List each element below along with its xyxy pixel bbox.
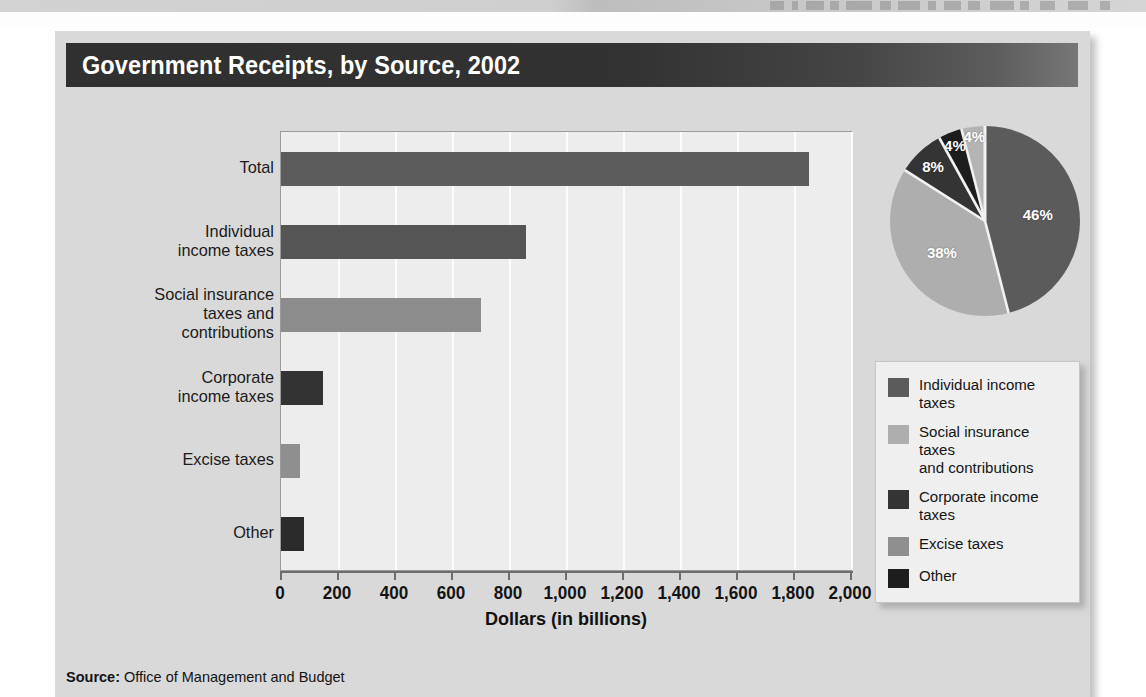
x-axis-tick-label: 1,000 <box>544 583 587 604</box>
source-text: Office of Management and Budget <box>124 669 345 685</box>
legend-item: Individual income taxes <box>888 376 1069 412</box>
gridline <box>794 132 796 570</box>
gridline <box>566 132 568 570</box>
legend-item: Excise taxes <box>888 535 1069 556</box>
gridline <box>395 132 397 570</box>
legend-item: Social insurance taxesand contributions <box>888 423 1069 477</box>
x-axis-tick <box>679 571 681 580</box>
pie-slice-label: 38% <box>927 244 957 261</box>
gridline <box>680 132 682 570</box>
x-axis-tick <box>622 571 624 580</box>
x-axis-tick <box>793 571 795 580</box>
bar-category-axis-labels: TotalIndividualincome taxesSocial insura… <box>66 131 274 571</box>
x-axis-tick <box>508 571 510 580</box>
x-axis-tick-label: 200 <box>323 583 352 604</box>
gridline <box>338 132 340 570</box>
gridline <box>851 132 853 570</box>
scanned-page-edge-strip <box>0 0 1146 12</box>
x-axis-tick-label: 1,400 <box>658 583 701 604</box>
figure-title: Government Receipts, by Source, 2002 <box>66 51 520 80</box>
legend-swatch <box>888 490 909 509</box>
bar-plot-area <box>280 131 852 571</box>
pie-slice-label: 8% <box>922 157 944 174</box>
pie-slice-label: 46% <box>1023 206 1053 223</box>
chart-legend: Individual income taxesSocial insurance … <box>875 361 1080 603</box>
x-axis-tick-label: 1,200 <box>601 583 644 604</box>
gridline <box>737 132 739 570</box>
x-axis-tick-label: 1,600 <box>715 583 758 604</box>
x-axis-tick <box>451 571 453 580</box>
source-label: Source: <box>66 669 120 685</box>
legend-label: Excise taxes <box>919 535 1003 553</box>
bar-category-label: Social insurancetaxes andcontributions <box>74 285 274 342</box>
legend-label: Other <box>919 567 957 585</box>
x-axis-tick-label: 800 <box>494 583 523 604</box>
legend-item: Corporate income taxes <box>888 488 1069 524</box>
x-axis-tick-label: 400 <box>380 583 409 604</box>
legend-label: Social insurance taxesand contributions <box>919 423 1065 477</box>
x-axis-tick <box>280 571 282 580</box>
bar <box>281 225 526 259</box>
legend-swatch <box>888 378 909 397</box>
x-axis-tick <box>565 571 567 580</box>
source-note: Source: Office of Management and Budget <box>66 669 345 685</box>
legend-item: Other <box>888 567 1069 588</box>
legend-swatch <box>888 425 909 444</box>
bar-category-label: Excise taxes <box>74 450 274 469</box>
legend-label: Corporate income taxes <box>919 488 1065 524</box>
figure-title-banner: Government Receipts, by Source, 2002 <box>66 43 1078 87</box>
gridline <box>452 132 454 570</box>
gridline <box>509 132 511 570</box>
x-axis-tick-label: 2,000 <box>829 583 872 604</box>
figure-panel: Government Receipts, by Source, 2002 Tot… <box>55 31 1090 697</box>
x-axis-tick <box>394 571 396 580</box>
page-margin-whitespace <box>0 12 1146 28</box>
legend-label: Individual income taxes <box>919 376 1065 412</box>
x-axis-tick-label: 0 <box>275 583 285 604</box>
x-axis-title: Dollars (in billions) <box>280 609 852 630</box>
x-axis-tick <box>337 571 339 580</box>
bar-chart: TotalIndividualincome taxesSocial insura… <box>66 107 866 667</box>
legend-swatch <box>888 569 909 588</box>
pie-slice-label: 4% <box>963 128 985 145</box>
bar-category-label: Individualincome taxes <box>74 222 274 260</box>
bar <box>281 152 809 186</box>
legend-swatch <box>888 537 909 556</box>
bar <box>281 517 304 551</box>
x-axis-tick-label: 600 <box>437 583 466 604</box>
pie-chart: 46%38%8%4%4% <box>890 126 1080 316</box>
bar <box>281 444 300 478</box>
x-axis-tick <box>850 571 852 580</box>
x-axis-tick-label: 1,800 <box>772 583 815 604</box>
x-axis-tick <box>736 571 738 580</box>
bar-category-label: Corporateincome taxes <box>74 368 274 406</box>
gridline <box>623 132 625 570</box>
bar-category-label: Total <box>74 158 274 177</box>
bar <box>281 371 323 405</box>
bar <box>281 298 481 332</box>
bar-category-label: Other <box>74 523 274 542</box>
